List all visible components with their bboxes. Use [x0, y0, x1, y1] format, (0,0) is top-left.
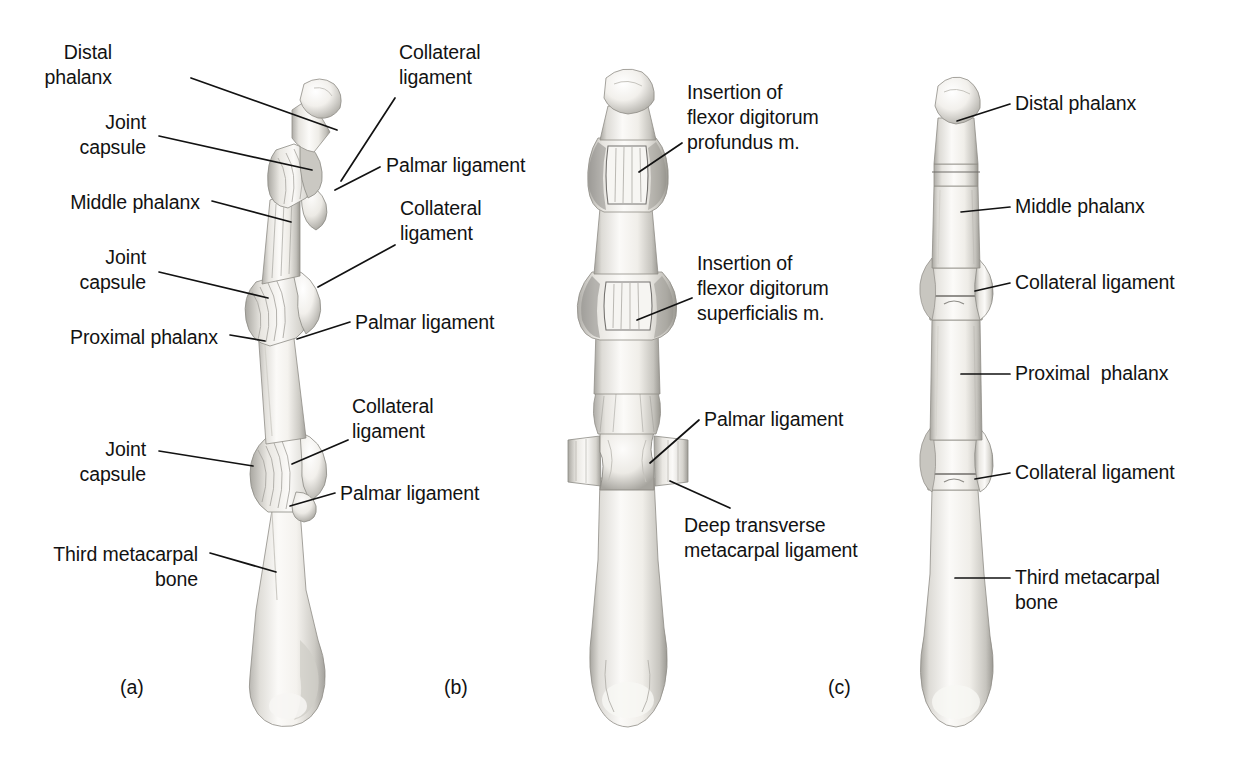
leader-joint-capsule-mcp — [159, 451, 253, 466]
label-line: Collateral ligament — [1015, 460, 1175, 485]
label-deep-transverse-metacarpal-ligament: Deep transversemetacarpal ligament — [684, 513, 858, 563]
label-line: Palmar ligament — [386, 153, 525, 178]
panel-caption-a: (a) — [120, 676, 144, 699]
label-collateral-ligament-dip: Collateralligament — [399, 40, 480, 90]
panel-caption-c: (c) — [828, 676, 851, 699]
label-distal-phalanx-c: Distal phalanx — [1015, 91, 1136, 116]
label-line: Distal — [44, 40, 112, 65]
label-third-metacarpal-bone: Third metacarpalbone — [53, 542, 198, 592]
label-line: Insertion of — [697, 251, 829, 276]
label-collateral-ligament-mcp: Collateralligament — [352, 394, 433, 444]
label-line: flexor digitorum — [697, 276, 829, 301]
label-line: Joint — [79, 437, 146, 462]
label-line: Palmar ligament — [355, 310, 494, 335]
label-palmar-ligament-b: Palmar ligament — [704, 407, 843, 432]
label-collateral-ligament-pip: Collateralligament — [400, 196, 481, 246]
label-line: bone — [53, 567, 198, 592]
label-line: Deep transverse — [684, 513, 858, 538]
label-line: Joint — [79, 245, 146, 270]
label-collateral-ligament-c-mcp: Collateral ligament — [1015, 460, 1175, 485]
label-distal-phalanx: Distalphalanx — [44, 40, 112, 90]
label-line: Distal phalanx — [1015, 91, 1136, 116]
label-line: Third metacarpal — [1015, 565, 1160, 590]
label-line: Middle phalanx — [70, 190, 200, 215]
label-line: phalanx — [44, 65, 112, 90]
label-line: ligament — [400, 221, 481, 246]
label-line: Insertion of — [687, 80, 819, 105]
panel-c-bone — [920, 77, 993, 727]
label-line: superficialis m. — [697, 301, 829, 326]
label-proximal-phalanx-c: Proximal phalanx — [1015, 361, 1168, 386]
label-line: flexor digitorum — [687, 105, 819, 130]
leader-collateral-ligament-pip — [318, 245, 395, 287]
label-line: Third metacarpal — [53, 542, 198, 567]
label-insertion-flexor-digitorum-superficialis: Insertion offlexor digitorumsuperficiali… — [697, 251, 829, 326]
panel-caption-b: (b) — [444, 676, 468, 699]
label-line: Collateral — [400, 196, 481, 221]
label-line: profundus m. — [687, 130, 819, 155]
panel-b-bone — [568, 69, 688, 727]
label-joint-capsule-pip: Jointcapsule — [79, 245, 146, 295]
anatomical-figure: DistalphalanxJointcapsuleMiddle phalanxJ… — [0, 0, 1234, 769]
label-line: Collateral — [352, 394, 433, 419]
leader-deep-transverse-metacarpal-ligament — [670, 481, 730, 508]
label-line: ligament — [399, 65, 480, 90]
label-line: bone — [1015, 590, 1160, 615]
label-line: Proximal phalanx — [70, 325, 218, 350]
label-joint-capsule-mcp: Jointcapsule — [79, 437, 146, 487]
label-line: Proximal phalanx — [1015, 361, 1168, 386]
label-line: Collateral ligament — [1015, 270, 1175, 295]
label-middle-phalanx: Middle phalanx — [70, 190, 200, 215]
label-line: Palmar ligament — [704, 407, 843, 432]
label-line: Palmar ligament — [340, 481, 479, 506]
label-line: capsule — [79, 462, 146, 487]
label-line: capsule — [79, 135, 146, 160]
label-collateral-ligament-c-pip: Collateral ligament — [1015, 270, 1175, 295]
label-line: Middle phalanx — [1015, 194, 1145, 219]
label-middle-phalanx-c: Middle phalanx — [1015, 194, 1145, 219]
label-line: metacarpal ligament — [684, 538, 858, 563]
label-line: capsule — [79, 270, 146, 295]
label-line: Joint — [79, 110, 146, 135]
label-line: ligament — [352, 419, 433, 444]
label-joint-capsule-dip: Jointcapsule — [79, 110, 146, 160]
label-palmar-ligament-mcp: Palmar ligament — [340, 481, 479, 506]
label-palmar-ligament-pip: Palmar ligament — [386, 153, 525, 178]
label-insertion-flexor-digitorum-profundus: Insertion offlexor digitorumprofundus m. — [687, 80, 819, 155]
label-proximal-phalanx: Proximal phalanx — [70, 325, 218, 350]
label-line: Collateral — [399, 40, 480, 65]
panel-a-bone — [245, 79, 341, 727]
label-palmar-ligament-mcp-upper: Palmar ligament — [355, 310, 494, 335]
label-third-metacarpal-bone-c: Third metacarpalbone — [1015, 565, 1160, 615]
leader-joint-capsule-pip — [159, 272, 268, 298]
